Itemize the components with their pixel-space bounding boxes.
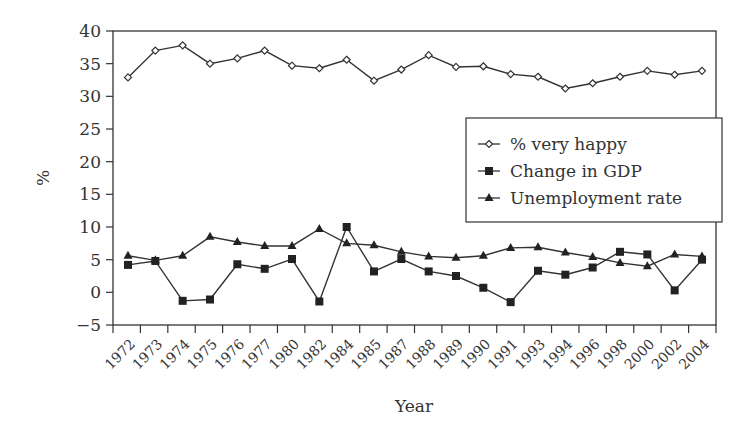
square-marker <box>179 297 187 305</box>
square-marker <box>507 298 515 306</box>
diamond-marker <box>480 63 487 70</box>
diamond-marker <box>316 65 323 72</box>
diamond-marker <box>234 55 241 62</box>
square-marker <box>534 267 542 275</box>
y-tick-label: −5 <box>76 315 101 335</box>
diamond-marker <box>699 67 706 74</box>
square-marker <box>124 261 132 269</box>
x-tick-label: 1988 <box>402 336 439 373</box>
x-tick-label: 1991 <box>484 336 521 373</box>
triangle-marker <box>452 253 461 261</box>
square-marker <box>233 260 241 268</box>
triangle-marker <box>506 243 515 251</box>
x-tick-label: 1976 <box>211 336 248 373</box>
x-tick-label: 1973 <box>129 336 166 373</box>
x-tick-label: 1989 <box>430 336 467 373</box>
square-marker <box>425 267 433 275</box>
x-tick-label: 1985 <box>348 336 385 373</box>
legend: % very happyChange in GDPUnemployment ra… <box>466 118 722 222</box>
x-tick-label: 1998 <box>594 336 631 373</box>
diamond-marker <box>535 73 542 80</box>
square-marker <box>343 223 351 231</box>
x-tick-label: 2004 <box>676 336 713 373</box>
square-marker <box>589 264 597 272</box>
diamond-marker <box>671 71 678 78</box>
x-tick-label: 1974 <box>156 336 193 373</box>
triangle-marker <box>534 242 543 250</box>
x-tick-label: 1975 <box>184 336 221 373</box>
square-marker <box>671 286 679 294</box>
diamond-marker <box>398 66 405 73</box>
diamond-marker <box>644 67 651 74</box>
legend-label: % very happy <box>510 134 627 154</box>
diamond-marker <box>453 63 460 70</box>
y-tick-label: 10 <box>79 217 101 237</box>
x-tick-label: 1996 <box>566 336 603 373</box>
x-tick-label: 1993 <box>512 336 549 373</box>
y-axis-label: % <box>33 170 53 186</box>
y-tick-label: 15 <box>79 184 101 204</box>
triangle-marker <box>370 240 379 248</box>
x-tick-label: 1982 <box>293 336 330 373</box>
x-tick-label: 1994 <box>539 336 576 373</box>
x-tick-label: 1972 <box>102 336 139 373</box>
series-very-happy <box>125 42 706 92</box>
x-tick-label: 1987 <box>375 336 412 373</box>
diamond-marker <box>562 85 569 92</box>
x-axis: 1972197319741975197619771980198219841985… <box>102 325 716 372</box>
y-tick-label: 35 <box>79 54 101 74</box>
series-unemployment-rate <box>124 224 707 269</box>
diamond-marker <box>261 47 268 54</box>
square-marker <box>206 296 214 304</box>
series-line <box>128 229 702 266</box>
triangle-marker <box>206 232 215 240</box>
x-tick-label: 1984 <box>320 336 357 373</box>
y-tick-label: 20 <box>79 152 101 172</box>
triangle-marker <box>670 249 679 257</box>
x-tick-label: 1990 <box>457 336 494 373</box>
diamond-marker <box>507 71 514 78</box>
square-marker <box>452 272 460 280</box>
diamond-marker <box>289 62 296 69</box>
series-line <box>128 45 702 88</box>
square-marker <box>397 255 405 263</box>
y-tick-label: 40 <box>79 21 101 41</box>
diamond-marker <box>425 52 432 59</box>
y-tick-label: 5 <box>90 250 101 270</box>
legend-label: Change in GDP <box>510 161 642 181</box>
y-tick-label: 0 <box>90 282 101 302</box>
legend-label: Unemployment rate <box>510 188 682 208</box>
y-axis: −50510152025303540 <box>76 21 113 335</box>
x-tick-label: 1980 <box>266 336 303 373</box>
triangle-marker <box>124 251 133 259</box>
square-marker <box>315 297 323 305</box>
diamond-marker <box>617 73 624 80</box>
diamond-marker <box>589 80 596 87</box>
triangle-marker <box>315 224 324 232</box>
square-marker <box>261 265 269 273</box>
x-tick-label: 2000 <box>621 336 658 373</box>
square-marker <box>616 248 624 256</box>
y-tick-label: 30 <box>79 86 101 106</box>
line-chart: −50510152025303540 197219731974197519761… <box>0 0 752 440</box>
square-marker <box>370 267 378 275</box>
square-marker <box>643 250 651 258</box>
y-tick-label: 25 <box>79 119 101 139</box>
square-marker <box>561 271 569 279</box>
triangle-marker <box>698 251 707 259</box>
triangle-marker <box>288 241 297 249</box>
triangle-marker <box>178 251 187 259</box>
x-tick-label: 2002 <box>648 336 685 373</box>
square-marker <box>288 255 296 263</box>
x-axis-label: Year <box>394 396 434 416</box>
x-tick-label: 1977 <box>238 336 275 373</box>
square-marker <box>479 284 487 292</box>
square-marker <box>485 167 493 175</box>
